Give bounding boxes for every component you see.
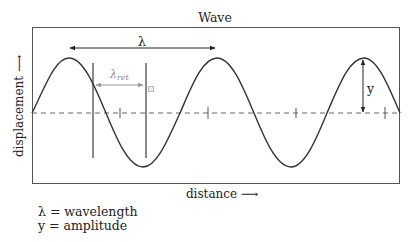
small-square-icon xyxy=(149,87,154,92)
y-axis-label: displacement ⟶ xyxy=(12,55,26,157)
relative-wavelength-label: λret xyxy=(109,68,130,82)
wavelength-symbol: λ xyxy=(138,34,146,49)
amplitude-symbol: y xyxy=(366,81,375,96)
plot-frame xyxy=(33,28,400,184)
legend-item-wavelength: λ = wavelength xyxy=(38,205,137,219)
legend-item-amplitude: y = amplitude xyxy=(38,219,137,233)
legend: λ = wavelength y = amplitude xyxy=(38,205,137,233)
x-axis-label: distance ⟶ xyxy=(186,187,258,201)
diagram-title: Wave xyxy=(198,10,232,25)
